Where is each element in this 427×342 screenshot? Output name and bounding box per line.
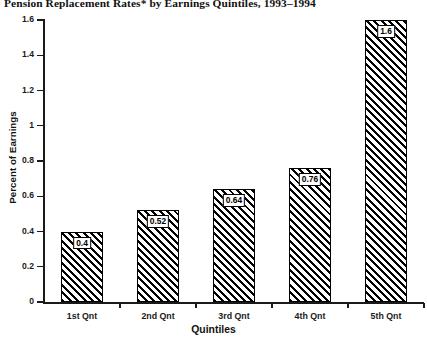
x-axis-tick-mark: [347, 303, 348, 308]
y-axis-tick-label: 1.6: [0, 15, 34, 24]
y-axis-tick-mark: [37, 231, 44, 232]
chart-title: Pension Replacement Rates* by Earnings Q…: [4, 0, 424, 10]
y-axis-tick-mark: [37, 160, 44, 161]
y-axis-tick-mark: [37, 266, 44, 267]
bar-value-label: 0.64: [223, 194, 245, 207]
x-axis-tick-mark: [119, 303, 120, 308]
x-axis-tick-label: 2nd Qnt: [118, 311, 198, 321]
x-axis-tick-label: 1st Qnt: [42, 311, 122, 321]
x-axis-tick-label: 4th Qnt: [270, 311, 350, 321]
y-axis-tick-mark: [37, 125, 44, 126]
y-axis-tick-label: 0.4: [0, 227, 34, 236]
bar-chart-figure: Pension Replacement Rates* by Earnings Q…: [0, 0, 427, 342]
x-axis-line: [43, 302, 424, 304]
bar-2: 0.52: [137, 210, 179, 302]
bar-value-label: 0.76: [299, 173, 321, 186]
bar-value-label: 1.6: [377, 25, 395, 38]
bar-4: 0.76: [289, 168, 331, 302]
x-axis-tick-label: 5th Qnt: [346, 311, 426, 321]
bar-value-label: 0.52: [147, 215, 169, 228]
x-axis-tick-mark: [423, 303, 424, 308]
bar-value-label: 0.4: [73, 237, 91, 250]
y-axis-tick-label: 0.2: [0, 262, 34, 271]
bar-1: 0.4: [61, 232, 103, 303]
bar-5: 1.6: [365, 20, 407, 302]
y-axis-tick-mark: [37, 301, 44, 302]
y-axis-tick-mark: [37, 55, 44, 56]
y-axis-tick-label: 1.4: [0, 50, 34, 59]
y-axis-tick-label: 0: [0, 297, 34, 306]
y-axis-tick-mark: [37, 196, 44, 197]
y-axis-title: Percent of Earnings: [7, 88, 18, 228]
y-axis-tick-mark: [37, 19, 44, 20]
x-axis-tick-mark: [271, 303, 272, 308]
x-axis-tick-label: 3rd Qnt: [194, 311, 274, 321]
y-axis-tick-mark: [37, 90, 44, 91]
bar-3: 0.64: [213, 189, 255, 302]
x-axis-tick-mark: [195, 303, 196, 308]
x-axis-title: Quintiles: [0, 324, 427, 335]
